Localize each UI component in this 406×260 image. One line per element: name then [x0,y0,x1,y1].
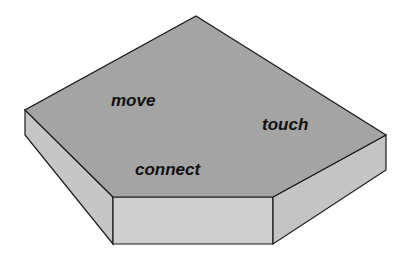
label-connect: connect [135,160,202,179]
label-move: move [111,91,155,110]
slab-diagram: move touch connect [0,0,406,260]
label-touch: touch [262,115,308,134]
front-face [113,197,273,244]
